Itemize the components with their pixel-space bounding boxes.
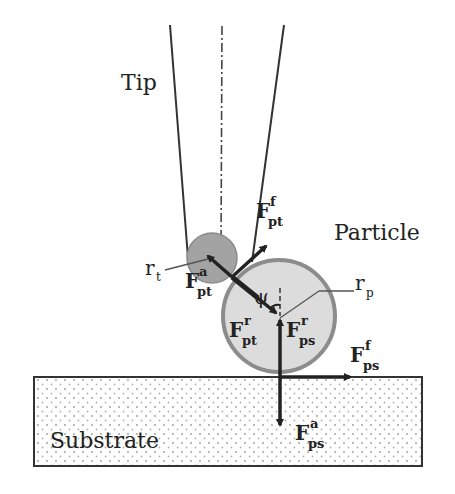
tip-particle-substrate-diagram: Tip Particle Substrate r t r p ψ F f pt … bbox=[0, 0, 455, 494]
svg-text:p: p bbox=[366, 286, 374, 300]
svg-text:r: r bbox=[244, 313, 251, 328]
svg-text:f: f bbox=[270, 194, 277, 209]
svg-text:r: r bbox=[301, 313, 308, 328]
afm-tip bbox=[170, 25, 284, 262]
svg-text:ps: ps bbox=[299, 333, 315, 348]
tip-label: Tip bbox=[121, 70, 157, 95]
svg-text:pt: pt bbox=[242, 333, 257, 348]
tip-radius-label: r t bbox=[145, 256, 161, 284]
svg-text:pt: pt bbox=[197, 284, 212, 299]
svg-text:ps: ps bbox=[308, 436, 324, 451]
svg-text:r: r bbox=[355, 271, 365, 295]
particle-radius-label: r p bbox=[355, 271, 374, 300]
svg-text:a: a bbox=[310, 416, 319, 431]
svg-text:a: a bbox=[199, 264, 208, 279]
substrate-label: Substrate bbox=[50, 428, 159, 453]
svg-text:pt: pt bbox=[268, 214, 283, 229]
svg-text:r: r bbox=[145, 256, 155, 280]
svg-text:ps: ps bbox=[363, 358, 379, 373]
force-label-f-pt-f: F f pt bbox=[256, 194, 283, 229]
angle-psi-label: ψ bbox=[253, 285, 269, 309]
particle-label: Particle bbox=[334, 220, 420, 245]
svg-text:f: f bbox=[365, 338, 372, 353]
svg-text:t: t bbox=[156, 270, 161, 284]
force-label-f-ps-f: F f ps bbox=[350, 338, 379, 373]
